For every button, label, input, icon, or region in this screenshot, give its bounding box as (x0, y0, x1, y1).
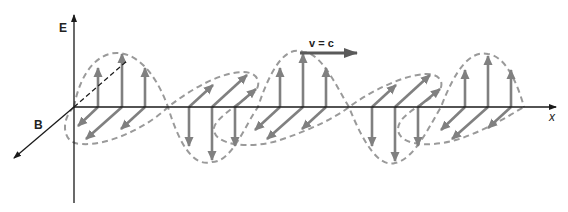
wave-canvas (0, 0, 568, 212)
b-axis-label: B (34, 119, 43, 131)
velocity-label: v = c (309, 38, 334, 49)
b-axis (14, 107, 74, 158)
e-axis-label: E (59, 22, 67, 34)
b-field-envelope (65, 72, 524, 145)
x-axis-label: x (549, 111, 555, 123)
